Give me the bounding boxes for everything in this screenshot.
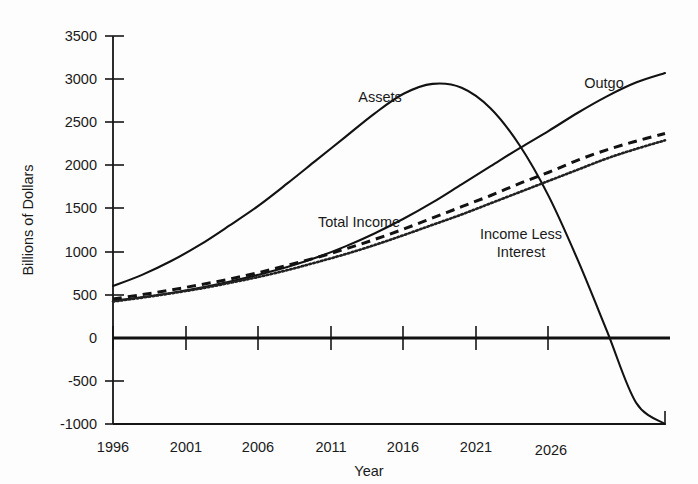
y-tick-label-3000: 3000 — [65, 71, 97, 87]
y-tick-label-2000: 2000 — [65, 157, 97, 173]
series-label-outgo: Outgo — [584, 75, 624, 91]
series-label-assets: Assets — [358, 89, 402, 105]
x-tick-label-2026: 2026 — [535, 442, 567, 458]
y-axis-title: Billions of Dollars — [20, 164, 36, 275]
y-tick-label-2500: 2500 — [65, 114, 97, 130]
y-tick-label-1000: 1000 — [65, 244, 97, 260]
chart-page: 3500 3000 2500 2000 1500 1000 500 0 -500… — [0, 0, 698, 484]
y-tick-label-minus1000: -1000 — [60, 416, 97, 432]
y-tick-marks — [105, 36, 124, 424]
x-tick-label-2016: 2016 — [387, 439, 419, 455]
x-tick-label-2001: 2001 — [170, 439, 202, 455]
series-label-income-less: Income Less — [480, 226, 562, 242]
x-tick-label-1996: 1996 — [97, 439, 129, 455]
x-tick-label-2021: 2021 — [460, 439, 492, 455]
series-line-outgo — [113, 73, 665, 301]
y-tick-label-0: 0 — [89, 330, 97, 346]
y-tick-label-500: 500 — [73, 287, 97, 303]
series-label-total-income: Total Income — [318, 214, 400, 230]
y-tick-label-1500: 1500 — [65, 200, 97, 216]
y-tick-label-3500: 3500 — [65, 28, 97, 44]
series-label-interest: Interest — [497, 244, 545, 260]
x-tick-label-2011: 2011 — [315, 439, 346, 455]
series-line-assets — [113, 83, 665, 424]
x-axis-title: Year — [354, 463, 383, 479]
x-tick-label-2006: 2006 — [242, 439, 274, 455]
line-chart: 3500 3000 2500 2000 1500 1000 500 0 -500… — [0, 0, 698, 484]
y-tick-label-minus500: -500 — [68, 373, 97, 389]
